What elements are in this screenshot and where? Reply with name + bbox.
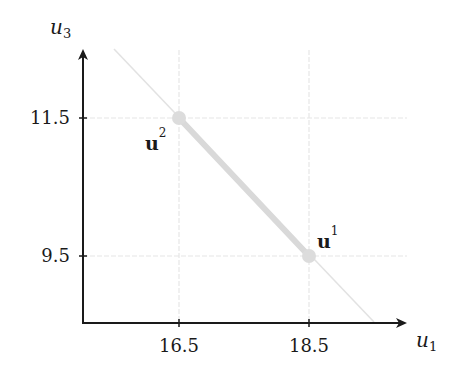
- y-axis-label-subscript: 3: [63, 26, 71, 41]
- y-tick-label-9-5: 9.5: [41, 245, 70, 266]
- y-axis-label-main: u: [50, 15, 63, 39]
- axes: [82, 56, 400, 323]
- x-axis-label-subscript: 1: [429, 339, 437, 354]
- y-tick-label-11-5: 11.5: [30, 107, 70, 128]
- x-axis-label: u1: [416, 328, 437, 354]
- point-label-u1-sup: 1: [331, 224, 339, 238]
- x-tick-label-16-5: 16.5: [159, 335, 199, 356]
- point-label-u2-sup: 2: [159, 126, 167, 140]
- x-axis-label-main: u: [416, 328, 429, 352]
- point-label-u1-main: u: [317, 230, 331, 252]
- point-u1: [302, 249, 316, 263]
- point-label-u2: u2: [145, 126, 166, 154]
- point-label-u1: u1: [317, 224, 338, 252]
- point-label-u2-main: u: [145, 132, 159, 154]
- plot-figure: 16.5 18.5 11.5 9.5 u3 u1 u2 u1: [0, 0, 462, 373]
- x-tick-label-18-5: 18.5: [289, 335, 329, 356]
- y-axis-label: u3: [50, 15, 71, 41]
- feasible-segment: [179, 118, 309, 256]
- point-u2: [172, 111, 186, 125]
